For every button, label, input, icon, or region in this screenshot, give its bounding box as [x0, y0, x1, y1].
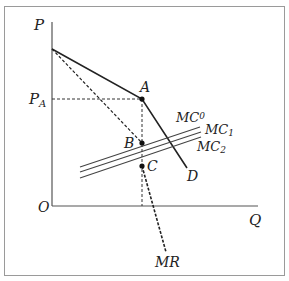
- point-a-label: A: [138, 79, 150, 95]
- economics-diagram: P Q O PA A B C D MR MC0 MC1 MC2: [0, 0, 289, 281]
- origin-label: O: [38, 199, 50, 215]
- mc2-label: MC2: [196, 139, 226, 155]
- demand-curve: [52, 49, 187, 168]
- mr-curve-lower: [142, 166, 166, 252]
- point-c: [139, 163, 144, 168]
- x-axis-label: Q: [249, 211, 261, 229]
- mc1-label: MC1: [204, 122, 234, 138]
- demand-label: D: [186, 168, 198, 184]
- mr-curve-upper: [52, 49, 142, 143]
- y-axis-label: P: [33, 16, 45, 34]
- mr-label: MR: [154, 254, 180, 270]
- point-b-label: B: [123, 135, 134, 151]
- point-c-label: C: [147, 158, 158, 174]
- point-b: [139, 140, 144, 145]
- mc0-label: MC0: [175, 110, 205, 125]
- price-a-label: PA: [28, 90, 46, 109]
- point-a: [139, 96, 144, 101]
